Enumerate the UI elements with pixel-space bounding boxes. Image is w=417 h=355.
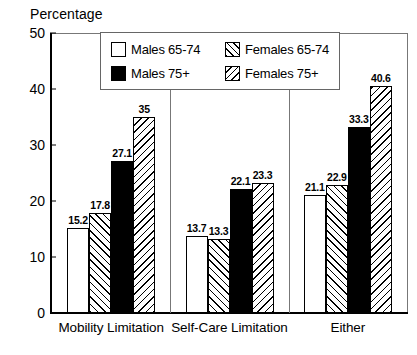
bar-value-label: 33.3 bbox=[349, 113, 369, 125]
y-tick-label: 30 bbox=[29, 137, 45, 153]
bar bbox=[304, 195, 326, 313]
bar-value-label: 13.3 bbox=[209, 225, 229, 237]
y-tick-label: 0 bbox=[37, 305, 45, 321]
bar bbox=[252, 183, 274, 313]
y-axis-ticks: 01020304050 bbox=[0, 0, 45, 355]
bar-value-label: 13.7 bbox=[187, 222, 207, 234]
bar bbox=[67, 228, 89, 313]
bar bbox=[370, 86, 392, 313]
y-tick-mark bbox=[50, 201, 56, 202]
y-tick-mark bbox=[50, 313, 56, 314]
bar-value-label: 40.6 bbox=[371, 72, 391, 84]
legend-swatch-icon bbox=[225, 66, 240, 81]
bar-value-label: 35 bbox=[139, 103, 150, 115]
legend-swatch-icon bbox=[111, 42, 126, 57]
bar bbox=[348, 127, 370, 313]
chart-legend: Males 65-74Females 65-74Males 75+Females… bbox=[100, 32, 340, 90]
bar-value-label: 22.9 bbox=[327, 171, 347, 183]
legend-item: Females 65-74 bbox=[225, 42, 339, 57]
legend-item: Males 65-74 bbox=[111, 42, 225, 57]
x-category-label: Self-Care Limitation bbox=[171, 320, 288, 335]
bar bbox=[230, 189, 252, 313]
bar bbox=[186, 236, 208, 313]
bar-value-label: 27.1 bbox=[112, 147, 132, 159]
bar bbox=[133, 117, 155, 313]
y-tick-label: 40 bbox=[29, 81, 45, 97]
bar-value-label: 15.2 bbox=[68, 214, 88, 226]
legend-label: Females 65-74 bbox=[245, 42, 329, 57]
bar bbox=[89, 213, 111, 313]
bar bbox=[208, 239, 230, 313]
y-tick-label: 10 bbox=[29, 249, 45, 265]
y-tick-mark bbox=[50, 89, 56, 90]
legend-item: Females 75+ bbox=[225, 66, 339, 81]
legend-item: Males 75+ bbox=[111, 66, 225, 81]
legend-swatch-icon bbox=[111, 66, 126, 81]
y-tick-label: 50 bbox=[29, 25, 45, 41]
bar-value-label: 21.1 bbox=[305, 181, 325, 193]
legend-swatch-icon bbox=[225, 42, 240, 57]
x-category-label: Mobility Limitation bbox=[58, 320, 163, 335]
bar-value-label: 17.8 bbox=[90, 199, 110, 211]
y-tick-mark bbox=[50, 257, 56, 258]
y-tick-label: 20 bbox=[29, 193, 45, 209]
x-category-label: Either bbox=[330, 320, 365, 335]
y-tick-mark bbox=[50, 145, 56, 146]
legend-label: Males 65-74 bbox=[131, 42, 200, 57]
grouped-bar-chart: Percentage 01020304050 15.217.827.13513.… bbox=[0, 0, 417, 355]
legend-label: Males 75+ bbox=[131, 66, 190, 81]
bar-value-label: 23.3 bbox=[253, 169, 273, 181]
y-tick-mark bbox=[50, 33, 56, 34]
bar bbox=[111, 161, 133, 313]
bar-value-label: 22.1 bbox=[231, 175, 251, 187]
bar bbox=[326, 185, 348, 313]
legend-label: Females 75+ bbox=[245, 66, 318, 81]
